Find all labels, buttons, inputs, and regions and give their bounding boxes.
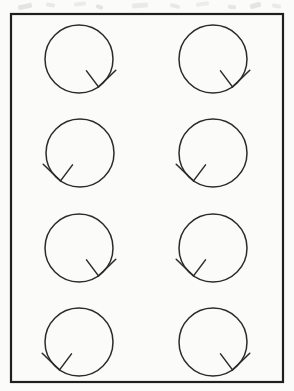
page-background: [0, 0, 294, 391]
worksheet-page: [0, 0, 294, 391]
worksheet-canvas: [0, 0, 294, 391]
